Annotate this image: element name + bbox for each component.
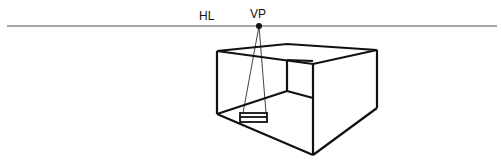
- back-wall-top: [287, 60, 313, 61]
- room-box: [217, 44, 377, 155]
- rug: [240, 113, 267, 122]
- horizon-label: HL: [199, 9, 215, 23]
- bottom-right-edge: [313, 108, 377, 155]
- vanishing-point-label: VP: [250, 7, 266, 21]
- perspective-diagram: HL VP: [0, 0, 501, 163]
- back-floor-left: [217, 91, 287, 114]
- back-floor-right: [287, 91, 313, 98]
